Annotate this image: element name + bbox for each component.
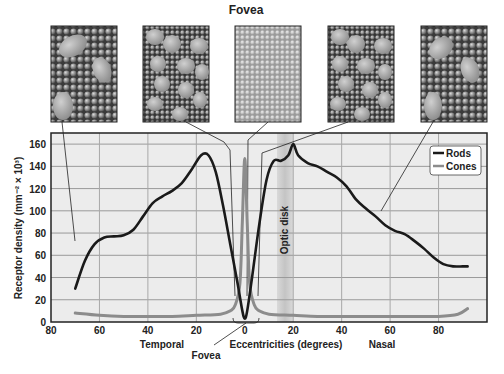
y-tick-label: 100: [29, 206, 46, 217]
x-tick-label: 60: [94, 325, 106, 336]
legend: Rods Cones: [430, 146, 481, 175]
retina-figure: 020406080100120140160 80604020020406080 …: [0, 0, 504, 374]
y-tick-label: 160: [29, 139, 46, 150]
x-axis-ticks: 80604020020406080: [45, 325, 444, 336]
plot-area: [51, 133, 487, 322]
legend-rods-label: Rods: [446, 148, 471, 159]
y-axis-ticks: 020406080100120140160: [29, 139, 46, 328]
panel-nasal-far: [421, 26, 487, 122]
y-tick-label: 60: [35, 250, 47, 261]
temporal-label: Temporal: [140, 339, 184, 350]
x-tick-label: 20: [288, 325, 300, 336]
x-tick-label: 80: [433, 325, 445, 336]
panel-temporal-near: [143, 26, 209, 122]
nasal-label: Nasal: [369, 339, 396, 350]
y-tick-label: 20: [35, 295, 47, 306]
x-tick-label: 40: [336, 325, 348, 336]
x-tick-label: 40: [142, 325, 154, 336]
y-tick-label: 40: [35, 273, 47, 284]
y-tick-label: 140: [29, 161, 46, 172]
y-tick-label: 120: [29, 184, 46, 195]
x-tick-label: 20: [191, 325, 203, 336]
x-tick-label: 80: [45, 325, 57, 336]
panel-temporal-far: [51, 26, 117, 122]
y-tick-label: 80: [35, 228, 47, 239]
panel-fovea: [235, 26, 301, 122]
x-tick-label: 60: [385, 325, 397, 336]
x-tick-label: 0: [242, 325, 248, 336]
fovea-label: Fovea: [192, 350, 221, 361]
x-axis-label: Eccentricities (degrees): [230, 339, 343, 350]
y-axis-label: Receptor density (mm⁻² × 10³): [13, 157, 24, 300]
legend-cones-label: Cones: [446, 161, 477, 172]
panel-nasal-near: [328, 26, 394, 122]
optic-disk-label: Optic disk: [279, 205, 290, 254]
